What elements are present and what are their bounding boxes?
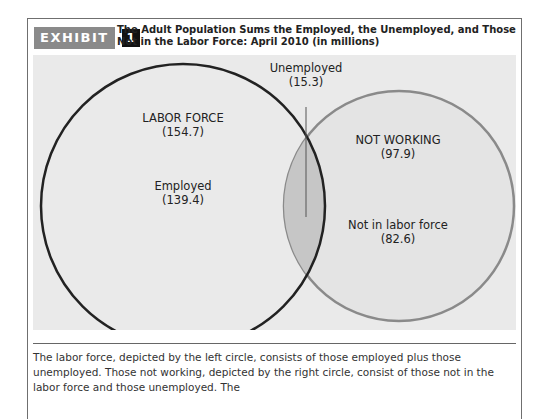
venn-diagram-panel: LABOR FORCE (154.7) Employed (139.4) Une… xyxy=(33,55,516,330)
employed-value: (139.4) xyxy=(128,193,238,207)
not-in-labor-force-label: Not in labor force (82.6) xyxy=(333,218,463,246)
exhibit-frame: EXHIBIT 1 The Adult Population Sums the … xyxy=(27,18,522,419)
not-in-labor-force-value: (82.6) xyxy=(333,232,463,246)
unemployed-label: Unemployed (15.3) xyxy=(256,61,356,89)
venn-diagram xyxy=(33,55,516,330)
not-working-label: NOT WORKING (97.9) xyxy=(343,133,453,161)
employed-label: Employed (139.4) xyxy=(128,179,238,207)
not-working-value: (97.9) xyxy=(343,147,453,161)
exhibit-caption: The labor force, depicted by the left ci… xyxy=(33,350,519,395)
not-working-text: NOT WORKING xyxy=(343,133,453,147)
labor-force-label: LABOR FORCE (154.7) xyxy=(128,111,238,139)
labor-force-value: (154.7) xyxy=(128,125,238,139)
exhibit-tag: EXHIBIT xyxy=(34,27,115,49)
not-in-labor-force-text: Not in labor force xyxy=(333,218,463,232)
caption-divider xyxy=(33,343,516,344)
exhibit-title: The Adult Population Sums the Employed, … xyxy=(117,24,517,48)
unemployed-value: (15.3) xyxy=(256,75,356,89)
employed-text: Employed xyxy=(128,179,238,193)
unemployed-text: Unemployed xyxy=(256,61,356,75)
labor-force-text: LABOR FORCE xyxy=(128,111,238,125)
